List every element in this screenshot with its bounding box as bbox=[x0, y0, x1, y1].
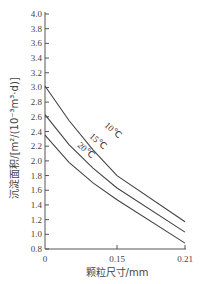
curves bbox=[45, 86, 185, 243]
y-tick-label: 2.2 bbox=[31, 141, 42, 151]
x-tick-label-0.15: 0.15 bbox=[109, 254, 125, 264]
curve-10℃ bbox=[45, 86, 185, 222]
x-axis-title: 颗粒尺寸/mm bbox=[86, 266, 149, 278]
sedimentation-area-chart: 0.81.01.21.41.61.82.02.22.42.62.83.03.23… bbox=[0, 0, 202, 284]
y-tick-label: 2.0 bbox=[31, 156, 43, 166]
y-tick-label: 1.6 bbox=[31, 185, 43, 195]
y-tick-label: 3.0 bbox=[31, 82, 43, 92]
y-tick-label: 1.0 bbox=[31, 229, 43, 239]
curve-label-10c: 10℃ bbox=[103, 120, 124, 140]
y-tick-label: 3.6 bbox=[31, 38, 43, 48]
y-tick-label: 1.2 bbox=[31, 215, 42, 225]
y-axis-title: 沉淀面积/[m²/(10⁻³m³·d)] bbox=[8, 77, 20, 198]
y-tick-label: 3.4 bbox=[31, 53, 43, 63]
y-tick-label: 3.8 bbox=[31, 24, 43, 34]
y-tick-label: 4.0 bbox=[31, 9, 43, 19]
y-tick-label: 0.8 bbox=[31, 244, 43, 254]
y-tick-label: 1.8 bbox=[31, 171, 43, 181]
x-tick-label-0.21: 0.21 bbox=[177, 254, 193, 264]
y-tick-label: 2.8 bbox=[31, 97, 43, 107]
y-axis-ticks: 0.81.01.21.41.61.82.02.22.42.62.83.03.23… bbox=[31, 9, 49, 254]
y-tick-label: 1.4 bbox=[31, 200, 43, 210]
y-tick-label: 2.4 bbox=[31, 127, 43, 137]
y-tick-label: 2.6 bbox=[31, 112, 43, 122]
y-tick-label: 3.2 bbox=[31, 68, 42, 78]
x-tick-label-0: 0 bbox=[43, 254, 48, 264]
curve-20℃ bbox=[45, 135, 185, 243]
